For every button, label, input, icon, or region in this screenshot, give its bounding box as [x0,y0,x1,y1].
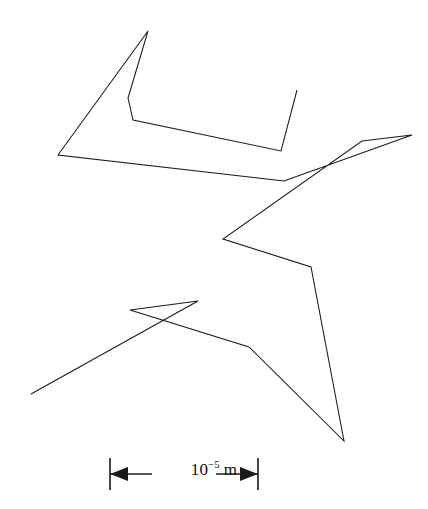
random-walk-plot [0,0,428,509]
random-walk-polyline [31,31,412,441]
figure-root: 10−5m [0,0,428,509]
scale-bar-unit: m [224,460,237,479]
scale-bar-exponent: −5 [208,459,220,470]
scale-bar-label: 10−5m [0,461,428,478]
scale-bar-mantissa: 10 [191,460,208,479]
